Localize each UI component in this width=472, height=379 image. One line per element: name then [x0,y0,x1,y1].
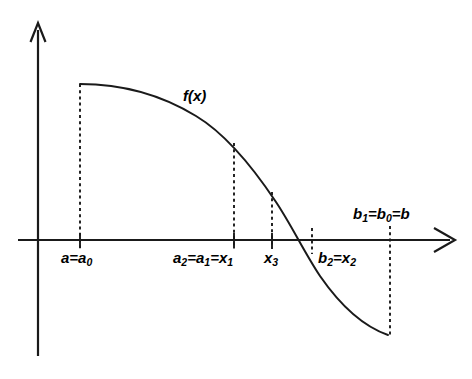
axis-label-a2a1x1: a2=a1=x1 [173,250,233,267]
axis-label-a1-text: =a [187,249,204,266]
axis-label-b2-text: b [318,249,327,266]
axis-label-x1-text: =x [210,249,227,266]
axis-label-b1-text: b [353,205,362,222]
axis-label-b1b0b: b1=b0=b [353,206,410,223]
axis-label-a-text: a=a [61,249,86,266]
axis-label-b0-text: =b [368,205,386,222]
curve-label-fx: f(x) [183,88,206,103]
axis-label-x3-sub: 3 [272,256,278,268]
axis-label-x3: x3 [264,250,278,267]
function-graph-figure: f(x) a=a0 a2=a1=x1 x3 b2=x2 b1=b0=b [0,0,472,379]
function-curve [80,84,388,335]
axis-label-x1-sub: 1 [227,256,233,268]
axis-label-b-text: =b [392,205,410,222]
axis-label-x2-sub: 2 [350,256,356,268]
axis-label-a-sub: 0 [86,256,92,268]
axis-label-a: a=a0 [61,250,92,267]
graph-canvas [0,0,472,379]
axis-label-x2-text: =x [333,249,350,266]
axis-label-b2x2: b2=x2 [318,250,356,267]
